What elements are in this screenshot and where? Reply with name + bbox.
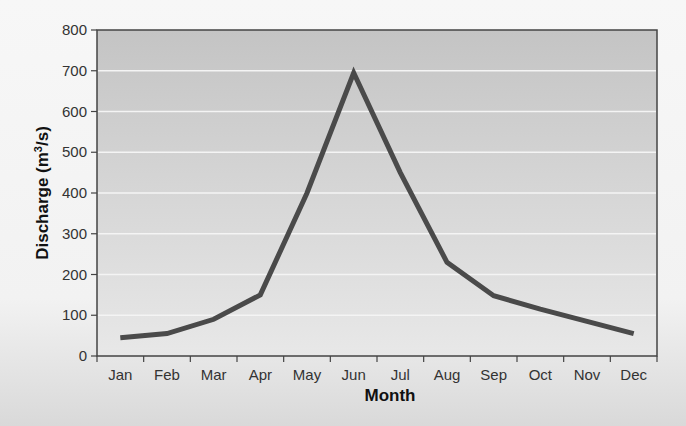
x-tick-label-may: May	[293, 366, 322, 383]
x-tick-label-jan: Jan	[108, 366, 132, 383]
y-tick-label: 500	[62, 143, 87, 160]
y-axis-title: Discharge (m3/s)	[32, 126, 52, 260]
x-tick-label-aug: Aug	[434, 366, 461, 383]
x-tick-label-oct: Oct	[529, 366, 553, 383]
x-tick-label-feb: Feb	[154, 366, 180, 383]
y-axis-title-main: Discharge (m	[33, 152, 52, 260]
x-axis-title: Month	[365, 386, 416, 405]
x-tick-label-mar: Mar	[201, 366, 227, 383]
x-tick-label-sep: Sep	[480, 366, 507, 383]
y-tick-label: 200	[62, 266, 87, 283]
y-tick-label: 700	[62, 62, 87, 79]
discharge-line-chart: 0100200300400500600700800 JanFebMarAprMa…	[0, 0, 686, 426]
y-tick-label: 0	[79, 347, 87, 364]
y-axis-title-tail: /s)	[33, 126, 52, 146]
y-tick-label: 600	[62, 103, 87, 120]
x-tick-label-nov: Nov	[574, 366, 601, 383]
x-tick-label-jun: Jun	[342, 366, 366, 383]
y-axis: 0100200300400500600700800	[62, 21, 97, 364]
x-tick-label-dec: Dec	[620, 366, 647, 383]
y-tick-label: 100	[62, 306, 87, 323]
y-tick-label: 400	[62, 184, 87, 201]
x-tick-label-jul: Jul	[391, 366, 410, 383]
x-tick-label-apr: Apr	[249, 366, 272, 383]
y-tick-label: 300	[62, 225, 87, 242]
x-axis: JanFebMarAprMayJunJulAugSepOctNovDec	[97, 356, 657, 383]
y-tick-label: 800	[62, 21, 87, 38]
